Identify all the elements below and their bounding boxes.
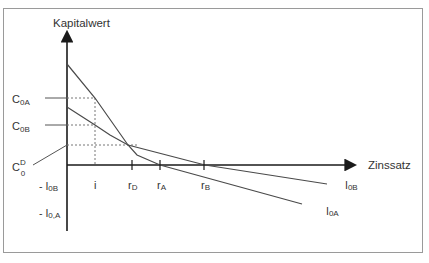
line-label-i0b: I0B [345,179,358,192]
label-neg-i0a: - I0,A [39,207,61,220]
label-neg-i0b: - I0B [39,180,58,193]
kapitalwert-diagram: Kapitalwert Zinssatz C0A C0B CD0 - I0B -… [0,0,429,263]
tick-label-i: i [94,179,96,191]
curve-i0a [67,64,302,204]
y-axis-title: Kapitalwert [53,17,111,29]
label-c0b: C0B [12,120,30,134]
label-c0a: C0A [12,93,30,107]
label-cd0: CD0 [12,158,26,178]
tick-label-ra: rA [157,179,167,192]
x-axis-title: Zinssatz [368,159,411,171]
tick-label-rb: rB [201,179,210,192]
label-leaders [33,98,67,165]
tick-label-rd: rD [128,179,138,192]
curve-i0b [67,107,327,184]
line-label-i0a: I0A [326,205,339,218]
